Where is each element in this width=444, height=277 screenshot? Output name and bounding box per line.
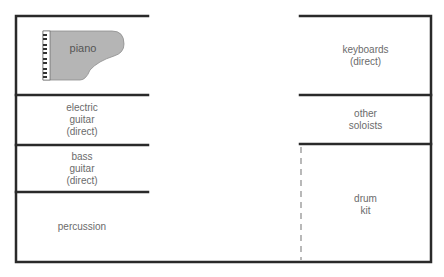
zone-label-piano: piano bbox=[58, 42, 108, 54]
studio-floor-plan: piano electric guitar (direct) bass guit… bbox=[0, 0, 444, 277]
grand-piano-icon bbox=[43, 31, 124, 80]
zone-label-percussion: percussion bbox=[16, 221, 148, 233]
zone-label-keyboards: keyboards (direct) bbox=[300, 44, 431, 68]
zone-label-electric-guitar: electric guitar (direct) bbox=[16, 102, 148, 138]
zone-label-drum-kit: drum kit bbox=[300, 193, 431, 217]
zone-label-other-soloists: other soloists bbox=[300, 108, 431, 132]
zone-label-bass-guitar: bass guitar (direct) bbox=[16, 151, 148, 187]
